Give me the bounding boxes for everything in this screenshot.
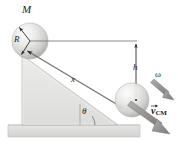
label-radius-R: R [14, 35, 20, 44]
label-angle-theta: θ [82, 107, 86, 116]
height-endpoint-tick [135, 99, 137, 101]
label-distance-x: x [71, 75, 75, 84]
label-angular-velocity-omega: ω [155, 70, 161, 79]
physics-diagram-sphere-on-incline [0, 0, 178, 149]
vector-arrow-overbar [151, 103, 158, 108]
label-height-h: h [133, 63, 138, 72]
label-mass-M: M [22, 4, 31, 15]
label-velocity-vcm: vCM [151, 106, 167, 117]
vcm-subscript: CM [155, 109, 166, 117]
inclined-plane [22, 55, 118, 125]
ground-surface [8, 125, 140, 137]
angular-velocity-arrow [151, 79, 175, 100]
